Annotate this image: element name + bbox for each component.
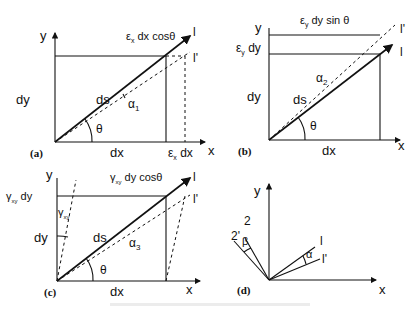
label-ey-dy: εy dy [236, 41, 261, 57]
label-theta: θ [96, 122, 103, 136]
panel-d: y 2 2' β l α l' x (d) [231, 183, 386, 297]
label-l-prime: l' [193, 192, 198, 206]
axis-x: x [398, 138, 405, 153]
strain-diagram-figure: εx dx cosθ l l' dy ds α1 θ y x dx εx dx … [0, 0, 417, 309]
label-theta: θ [100, 263, 107, 277]
label-dx: dx [110, 145, 124, 160]
axis-y: y [40, 28, 47, 43]
panel-a: εx dx cosθ l l' dy ds α1 θ y x dx εx dx … [16, 25, 215, 161]
panel-c: γxy dy y γxy dy cosθ l l' γxy dy ds α3 θ… [6, 167, 200, 299]
axis-y: y [255, 20, 262, 35]
label-dx: dx [322, 143, 336, 158]
label-alpha1: α1 [128, 97, 140, 113]
axis-y: y [254, 183, 261, 198]
axis-x: x [186, 282, 193, 297]
label-alpha3: α3 [129, 236, 141, 252]
label-l: l [193, 170, 196, 184]
label-theta: θ [310, 119, 317, 133]
label-l-prime: l' [400, 22, 405, 36]
panel-tag-b: (b) [238, 145, 252, 158]
panel-tag-d: (d) [237, 284, 251, 297]
label-gxy-dy-cos: γxy dy cosθ [110, 171, 162, 185]
label-2-prime: 2' [231, 229, 240, 243]
label-2: 2 [244, 214, 251, 228]
panel-b: εy dy sin θ y εy dy l' l α2 dy ds θ dx x… [236, 14, 405, 158]
label-dx: dx [110, 284, 124, 299]
label-1-prime: l' [322, 252, 327, 266]
axis-y: y [46, 167, 53, 182]
axis-x: x [379, 282, 386, 297]
panel-tag-c: (c) [44, 286, 57, 299]
axis-x: x [208, 143, 215, 158]
label-ds: ds [93, 230, 107, 245]
caption-faint [110, 303, 310, 306]
label-dy: dy [247, 89, 261, 104]
label-ex-dx-cos: εx dx cosθ [126, 30, 175, 44]
label-beta: β [242, 235, 248, 247]
label-ds: ds [293, 92, 307, 107]
label-l-prime: l' [193, 51, 198, 65]
label-dy: dy [16, 92, 30, 107]
label-alpha2: α2 [316, 71, 328, 87]
panel-tag-a: (a) [30, 147, 43, 160]
label-gxy-dy: γxy dy [6, 190, 33, 204]
label-gamma: γxy [58, 206, 70, 220]
label-1: l [320, 234, 323, 248]
label-ey-dy-sin: εy dy sin θ [300, 14, 349, 29]
label-l: l [193, 25, 196, 39]
diagram-canvas: εx dx cosθ l l' dy ds α1 θ y x dx εx dx … [0, 0, 417, 309]
label-l: l [400, 45, 403, 59]
label-ds: ds [96, 92, 110, 107]
label-alpha: α [306, 248, 313, 260]
label-ex-dx: εx dx [168, 146, 193, 161]
label-dy: dy [34, 230, 48, 245]
